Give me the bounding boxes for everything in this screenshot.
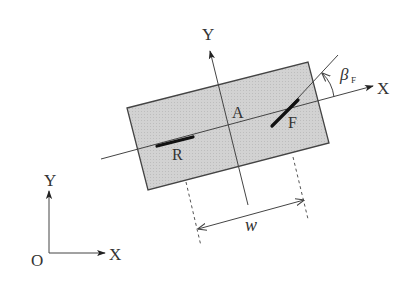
global-origin-label: O bbox=[31, 251, 43, 270]
width-extension-left bbox=[186, 182, 201, 246]
body-y-axis-label: Y bbox=[202, 25, 214, 44]
body-x-axis-label: X bbox=[377, 79, 389, 98]
front-wheel-label: F bbox=[288, 114, 297, 131]
global-y-axis-label: Y bbox=[44, 171, 56, 190]
steer-angle-arc bbox=[322, 73, 334, 97]
global-x-axis-label: X bbox=[109, 245, 121, 264]
steer-angle-label: β bbox=[339, 65, 349, 84]
steer-angle-symbol: β bbox=[339, 65, 349, 84]
track-width-label: w bbox=[245, 215, 257, 235]
steer-angle-subscript: F bbox=[351, 75, 356, 85]
rear-wheel-label: R bbox=[172, 146, 183, 163]
center-label: A bbox=[232, 104, 244, 121]
width-extension-right bbox=[293, 157, 308, 219]
vehicle-diagram: Y X A F R β F w Y X O bbox=[0, 0, 418, 286]
